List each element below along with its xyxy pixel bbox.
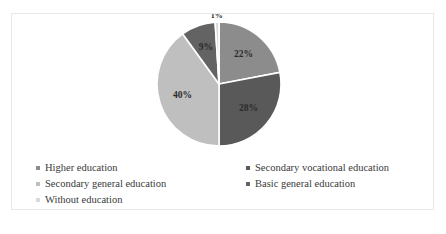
legend-item-label: Without education — [45, 192, 122, 208]
legend-column-right: Secondary vocational education Basic gen… — [246, 160, 389, 192]
legend-marker-icon — [246, 182, 250, 186]
pie-slice-value-label: 9% — [199, 42, 213, 52]
legend-item-secondary-general-education[interactable]: Secondary general education — [36, 176, 166, 192]
pie-chart-plot-area: 22%28%40%9%1% — [12, 14, 433, 154]
pie-chart: 22%28%40%9%1% — [12, 14, 433, 154]
legend-item-label: Secondary general education — [45, 176, 166, 192]
legend-marker-icon — [36, 166, 40, 170]
legend-marker-icon — [246, 166, 250, 170]
pie-slice-value-label: 22% — [234, 49, 253, 59]
pie-slice-value-label: 28% — [239, 103, 258, 113]
legend-item-basic-general-education[interactable]: Basic general education — [246, 176, 389, 192]
legend-item-secondary-vocational-education[interactable]: Secondary vocational education — [246, 160, 389, 176]
pie-slice-group — [157, 22, 281, 146]
legend-item-without-education[interactable]: Without education — [36, 192, 166, 208]
legend-item-label: Higher education — [45, 160, 118, 176]
legend-item-label: Basic general education — [255, 176, 355, 192]
chart-legend: Higher education Secondary general educa… — [12, 160, 433, 210]
legend-item-label: Secondary vocational education — [255, 160, 389, 176]
pie-slice-value-label: 40% — [173, 90, 192, 100]
legend-column-left: Higher education Secondary general educa… — [36, 160, 166, 208]
legend-marker-icon — [36, 182, 40, 186]
legend-item-higher-education[interactable]: Higher education — [36, 160, 166, 176]
chart-frame: 22%28%40%9%1% Higher education Secondary… — [11, 13, 434, 210]
pie-slice-value-label: 1% — [211, 14, 223, 20]
legend-marker-icon — [36, 198, 40, 202]
